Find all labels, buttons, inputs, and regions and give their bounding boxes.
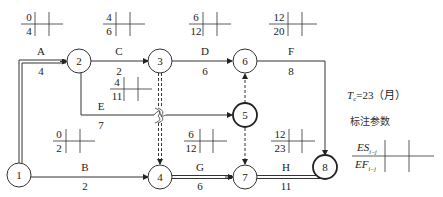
activity-A-duration: 4 [38,65,44,77]
activity-D-duration: 6 [202,65,208,77]
node-1: 1 [7,163,31,187]
svg-text:4: 4 [114,76,120,88]
activity-G-arrow [172,176,233,179]
param-box-H: 12 23 [271,128,315,154]
node-2: 2 [67,49,91,73]
param-box-D: 6 12 [189,11,231,37]
activity-E-name: E [98,100,105,112]
svg-text:20: 20 [274,25,286,37]
svg-text:0: 0 [26,11,32,23]
activity-A-name: A [37,45,45,57]
svg-text:4: 4 [157,171,163,183]
legend: Tc=23（月） 标注参数 ESi−j EFi−j [347,89,434,172]
svg-text:3: 3 [157,55,163,67]
svg-text:5: 5 [242,109,248,121]
node-6: 6 [233,49,257,73]
activity-G-duration: 6 [197,180,203,192]
node-5: 5 [233,103,257,127]
svg-text:4: 4 [106,11,112,23]
param-box-A: 0 4 [21,11,63,37]
node-7: 7 [233,165,257,189]
activity-F-duration: 8 [288,65,294,77]
svg-text:6: 6 [106,25,112,37]
node-4: 4 [148,165,172,189]
svg-text:23: 23 [275,142,287,154]
activity-B-name: B [81,161,88,173]
param-box-F: 12 20 [269,11,317,37]
legend-ef-label: EFi−j [354,158,376,172]
node-8: 8 [313,155,337,179]
svg-text:8: 8 [322,161,328,173]
activity-C-name: C [115,45,122,57]
activity-H-duration: 11 [281,180,292,192]
legend-title: 标注参数 [350,115,390,127]
svg-text:12: 12 [186,142,197,154]
svg-text:12: 12 [275,128,286,140]
svg-text:11: 11 [112,90,123,102]
param-box-G: 6 12 [184,128,227,154]
svg-text:6: 6 [188,128,194,140]
node-3: 3 [148,49,172,73]
svg-text:4: 4 [26,25,32,37]
activity-F-name: F [288,45,294,57]
svg-text:6: 6 [242,55,248,67]
svg-text:1: 1 [16,169,22,181]
activity-D-name: D [201,45,209,57]
svg-text:0: 0 [56,128,62,140]
activity-G-name: G [196,161,204,173]
param-box-E: 4 11 [110,76,152,102]
svg-text:6: 6 [193,11,199,23]
svg-text:2: 2 [76,55,82,67]
param-box-B: 0 2 [53,128,95,154]
svg-text:12: 12 [274,11,285,23]
activity-H-name: H [282,161,290,173]
param-box-C: 4 6 [103,11,145,37]
svg-text:7: 7 [242,171,248,183]
activity-B-duration: 2 [82,180,88,192]
svg-text:12: 12 [191,25,202,37]
network-diagram: 1 2 3 4 5 6 7 8 A 4 C 2 D 6 F 8 E 7 B 2 … [0,0,443,197]
svg-text:2: 2 [56,142,62,154]
activity-E-duration: 7 [98,119,104,131]
legend-es-label: ESi−j [356,141,377,155]
total-duration-label: Tc=23（月） [347,89,406,103]
